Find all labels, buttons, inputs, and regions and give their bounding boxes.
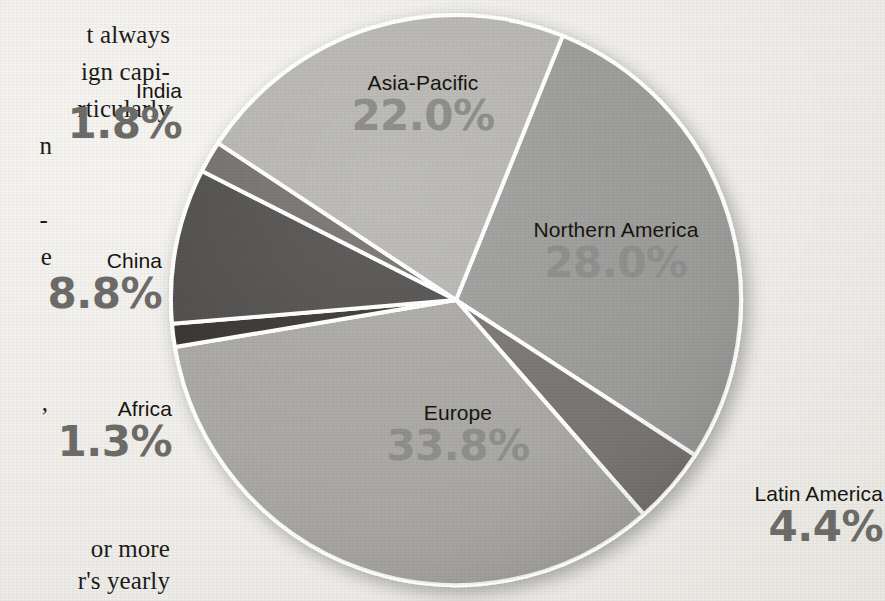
slice-label-africa: Africa 1.3% xyxy=(0,398,172,464)
slice-label-india: India 1.8% xyxy=(0,80,182,146)
slice-value-northern-america: 28.0% xyxy=(501,241,731,285)
slice-label-northern-america: Northern America 28.0% xyxy=(501,219,731,285)
slice-label-asia-pacific: Asia-Pacific 22.0% xyxy=(318,72,528,138)
slice-value-africa: 1.3% xyxy=(0,420,172,464)
slice-value-india: 1.8% xyxy=(0,102,182,146)
slice-value-europe: 33.8% xyxy=(368,424,548,468)
slice-label-china: China 8.8% xyxy=(0,250,162,316)
slice-value-asia-pacific: 22.0% xyxy=(318,94,528,138)
slice-label-europe: Europe 33.8% xyxy=(368,402,548,468)
slice-value-latin-america: 4.4% xyxy=(645,505,883,549)
slice-label-latin-america: Latin America 4.4% xyxy=(645,483,883,549)
slice-value-china: 8.8% xyxy=(0,272,162,316)
